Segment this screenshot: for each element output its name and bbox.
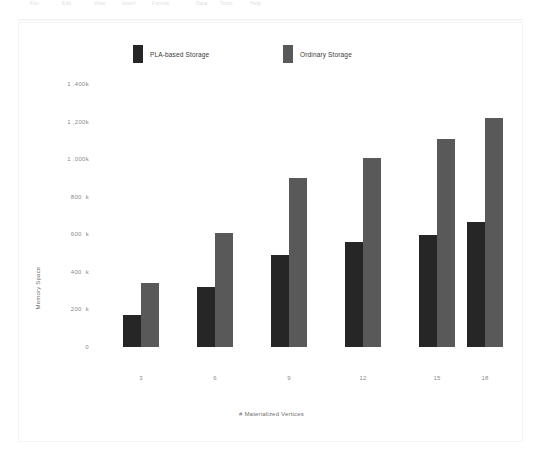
bar-ordinary-storage-15 [437,139,455,347]
toolbar-menu-item[interactable]: View [94,0,106,6]
chart-figure-card: PLA-based StorageOrdinary Storage 0200 k… [18,22,523,442]
toolbar-menu-item[interactable]: Tools [220,0,233,6]
x-axis-tick-label: 9 [269,375,309,381]
toolbar-menu-item[interactable]: Edit [62,0,71,6]
toolbar-menu-item[interactable]: Insert [122,0,136,6]
bar-pla-based-storage-3 [123,315,141,347]
x-axis-tick-label: 6 [195,375,235,381]
x-axis-tick-label: 3 [121,375,161,381]
bar-ordinary-storage-6 [215,233,233,347]
bar-pla-based-storage-18 [467,222,485,347]
bar-ordinary-storage-18 [485,118,503,347]
x-axis-tick-label: 12 [343,375,383,381]
toolbar-divider-secondary [18,20,523,21]
bar-pla-based-storage-15 [419,235,437,347]
app-toolbar-strip: FileEditViewInsertFormatDataToolsHelp [0,0,541,14]
x-axis-ticks: 369121518 [19,375,524,391]
x-axis-tick-label: 15 [417,375,457,381]
x-axis-tick-label: 18 [465,375,505,381]
bar-ordinary-storage-9 [289,178,307,347]
toolbar-menu-item[interactable]: Help [250,0,261,6]
bar-pla-based-storage-9 [271,255,289,347]
toolbar-menu-item[interactable]: Format [152,0,169,6]
bar-ordinary-storage-3 [141,283,159,347]
toolbar-menu-item[interactable]: File [30,0,39,6]
toolbar-menu-item[interactable]: Data [196,0,207,6]
bar-ordinary-storage-12 [363,158,381,347]
x-axis-title: # Materialized Vertices [19,411,524,417]
bar-pla-based-storage-6 [197,287,215,347]
bar-pla-based-storage-12 [345,242,363,347]
bar-chart-plot: PLA-based StorageOrdinary Storage 0200 k… [19,23,524,443]
